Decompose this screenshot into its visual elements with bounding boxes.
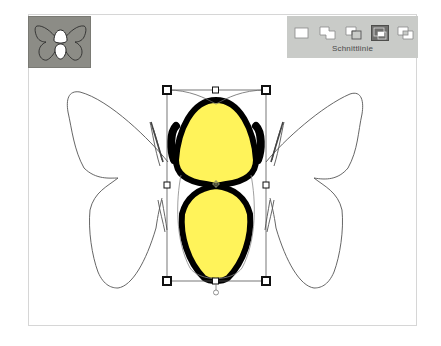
path-operations-panel: Schnittlinie — [287, 16, 418, 58]
handle-middle-left — [164, 182, 170, 188]
handle-top-left — [163, 86, 171, 94]
left-wing[interactable] — [67, 92, 168, 288]
path-mode-buttons — [293, 25, 415, 41]
new-shape-button[interactable] — [293, 25, 311, 41]
rotation-handle[interactable] — [214, 284, 219, 295]
combine-shapes-button[interactable] — [319, 25, 337, 41]
new-shape-icon — [293, 25, 311, 41]
subtract-front-shape-icon — [345, 25, 363, 41]
exclude-overlapping-shapes-button[interactable] — [397, 25, 415, 41]
handle-bottom-left — [163, 277, 171, 285]
combine-shapes-icon — [319, 25, 337, 41]
subtract-front-shape-button[interactable] — [345, 25, 363, 41]
right-wing[interactable] — [265, 93, 363, 288]
exclude-overlapping-shapes-icon — [397, 25, 415, 41]
butterfly-thumbnail-icon — [29, 17, 92, 69]
handle-bottom-middle — [213, 278, 219, 284]
butterfly-body[interactable] — [171, 100, 261, 281]
panel-label: Schnittlinie — [287, 44, 418, 53]
handle-bottom-right — [262, 277, 270, 285]
handle-top-middle — [213, 87, 219, 93]
handle-top-right — [262, 86, 270, 94]
handle-middle-right — [263, 182, 269, 188]
intersect-shape-areas-button[interactable] — [371, 25, 389, 41]
layer-thumbnail[interactable] — [28, 16, 91, 68]
intersect-shape-areas-icon — [372, 26, 390, 42]
